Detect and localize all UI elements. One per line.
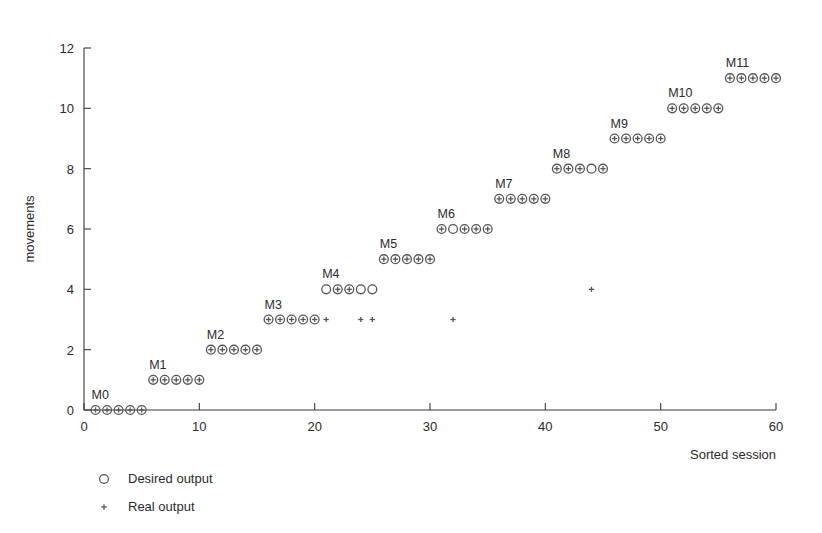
real-output-point bbox=[416, 257, 421, 262]
real-output-point bbox=[162, 377, 167, 382]
scatter-plot: 0246810120102030405060movementsSorted se… bbox=[0, 0, 822, 533]
real-output-point bbox=[93, 407, 98, 412]
real-output-point bbox=[762, 76, 767, 81]
real-output-point bbox=[520, 196, 525, 201]
real-output-point bbox=[347, 287, 352, 292]
real-output-point bbox=[335, 287, 340, 292]
x-tick-label: 0 bbox=[80, 419, 87, 434]
real-output-point bbox=[577, 166, 582, 171]
y-axis-ticks: 024681012 bbox=[60, 41, 91, 418]
y-tick-label: 10 bbox=[60, 101, 74, 116]
real-output-point bbox=[174, 377, 179, 382]
real-output-point bbox=[312, 317, 317, 322]
desired-output-point bbox=[449, 225, 458, 234]
real-output-point bbox=[289, 317, 294, 322]
chart-figure: 0246810120102030405060movementsSorted se… bbox=[0, 0, 822, 533]
real-output-point bbox=[693, 106, 698, 111]
real-output-point bbox=[773, 76, 778, 81]
group-label-m11: M11 bbox=[726, 56, 749, 70]
real-output-point bbox=[427, 257, 432, 262]
real-output-point bbox=[531, 196, 536, 201]
y-tick-label: 0 bbox=[67, 403, 74, 418]
x-tick-label: 40 bbox=[538, 419, 552, 434]
y-tick-label: 12 bbox=[60, 41, 74, 56]
axes bbox=[84, 48, 776, 410]
group-label-m0: M0 bbox=[92, 388, 109, 402]
group-label-m2: M2 bbox=[207, 328, 224, 342]
real-output-point bbox=[566, 166, 571, 171]
data-points bbox=[91, 74, 780, 415]
y-tick-label: 6 bbox=[67, 222, 74, 237]
real-output-point bbox=[508, 196, 513, 201]
real-output-point bbox=[381, 257, 386, 262]
x-tick-label: 30 bbox=[423, 419, 437, 434]
real-output-point bbox=[554, 166, 559, 171]
y-axis-title: movements bbox=[22, 195, 37, 263]
real-output-point bbox=[658, 136, 663, 141]
legend-label: Desired output bbox=[128, 471, 213, 486]
group-label-m10: M10 bbox=[668, 86, 692, 100]
real-output-point bbox=[277, 317, 282, 322]
real-output-point bbox=[139, 407, 144, 412]
legend-item-real: Real output bbox=[101, 499, 195, 514]
real-output-point bbox=[116, 407, 121, 412]
real-output-point bbox=[266, 317, 271, 322]
real-output-point bbox=[474, 226, 479, 231]
real-output-point bbox=[439, 226, 444, 231]
real-output-point bbox=[670, 106, 675, 111]
desired-output-point bbox=[368, 285, 377, 294]
group-label-m8: M8 bbox=[553, 147, 570, 161]
real-output-point bbox=[727, 76, 732, 81]
legend: Desired outputReal output bbox=[100, 471, 213, 514]
real-output-point bbox=[370, 317, 375, 322]
group-annotations: M0M1M2M3M4M5M6M7M8M9M10M11 bbox=[92, 56, 750, 402]
x-axis-title: Sorted session bbox=[690, 447, 776, 462]
real-output-point bbox=[647, 136, 652, 141]
desired-output-point bbox=[356, 285, 365, 294]
legend-item-desired: Desired output bbox=[100, 471, 213, 486]
real-output-point bbox=[612, 136, 617, 141]
x-axis-ticks: 0102030405060 bbox=[80, 403, 783, 434]
real-output-point bbox=[243, 347, 248, 352]
real-output-point bbox=[151, 377, 156, 382]
real-output-point bbox=[750, 76, 755, 81]
real-output-point bbox=[623, 136, 628, 141]
x-tick-label: 10 bbox=[192, 419, 206, 434]
legend-circle-icon bbox=[100, 475, 109, 484]
x-tick-label: 50 bbox=[653, 419, 667, 434]
legend-plus-icon bbox=[101, 504, 107, 510]
group-label-m7: M7 bbox=[495, 177, 512, 191]
x-tick-label: 20 bbox=[307, 419, 321, 434]
real-output-point bbox=[716, 106, 721, 111]
real-output-point bbox=[485, 226, 490, 231]
real-output-point bbox=[208, 347, 213, 352]
desired-output-point bbox=[587, 164, 596, 173]
group-label-m1: M1 bbox=[149, 358, 166, 372]
real-output-point bbox=[635, 136, 640, 141]
real-output-point bbox=[739, 76, 744, 81]
y-tick-label: 8 bbox=[67, 162, 74, 177]
real-output-point bbox=[231, 347, 236, 352]
real-output-point bbox=[704, 106, 709, 111]
group-label-m5: M5 bbox=[380, 237, 397, 251]
real-output-point bbox=[404, 257, 409, 262]
desired-output-point bbox=[322, 285, 331, 294]
real-output-point bbox=[589, 287, 594, 292]
real-output-point bbox=[450, 317, 455, 322]
real-output-point bbox=[358, 317, 363, 322]
y-tick-label: 2 bbox=[67, 343, 74, 358]
group-label-m3: M3 bbox=[265, 298, 282, 312]
y-tick-label: 4 bbox=[67, 282, 74, 297]
real-output-point bbox=[543, 196, 548, 201]
legend-label: Real output bbox=[128, 499, 195, 514]
real-output-point bbox=[197, 377, 202, 382]
real-output-point bbox=[681, 106, 686, 111]
real-output-point bbox=[128, 407, 133, 412]
group-label-m6: M6 bbox=[438, 207, 455, 221]
real-output-point bbox=[104, 407, 109, 412]
real-output-point bbox=[301, 317, 306, 322]
group-label-m9: M9 bbox=[611, 117, 628, 131]
x-tick-label: 60 bbox=[769, 419, 783, 434]
real-output-point bbox=[254, 347, 259, 352]
real-output-point bbox=[220, 347, 225, 352]
